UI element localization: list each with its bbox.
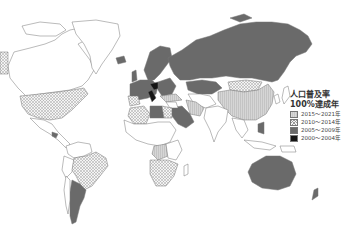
legend-swatch-crosshatch — [290, 119, 298, 126]
region-mexico — [30, 118, 70, 148]
region-scandinavia — [144, 46, 172, 80]
legend-label: 2005〜2009年 — [301, 126, 341, 134]
region-algeria — [128, 106, 150, 124]
legend-label: 2015〜2021年 — [301, 110, 341, 118]
region-russia — [168, 22, 312, 82]
legend-title-line1: 人口普及率 — [290, 90, 356, 100]
region-egypt — [162, 106, 172, 118]
legend-item-2010-2014: 2010〜2014年 — [290, 118, 356, 126]
legend-item-2000-2004: 2000〜2004年 — [290, 134, 356, 142]
region-libya — [150, 106, 164, 118]
legend: 人口普及率 100%達成年 2015〜2021年 2010〜2014年 2005… — [290, 90, 356, 142]
region-australia — [248, 156, 296, 190]
region-india — [204, 106, 228, 142]
region-drc — [152, 144, 168, 160]
region-southern-africa — [150, 160, 178, 186]
legend-item-2005-2009: 2005〜2009年 — [290, 126, 356, 134]
legend-swatch-stripes — [290, 111, 298, 118]
legend-item-2015-2021: 2015〜2021年 — [290, 110, 356, 118]
legend-swatch-gray — [290, 127, 298, 134]
legend-swatch-black — [290, 135, 298, 142]
legend-title-line2: 100%達成年 — [290, 100, 356, 110]
legend-label: 2000〜2004年 — [301, 134, 341, 142]
region-kazakhstan — [186, 80, 222, 94]
legend-label: 2010〜2014年 — [301, 118, 341, 126]
